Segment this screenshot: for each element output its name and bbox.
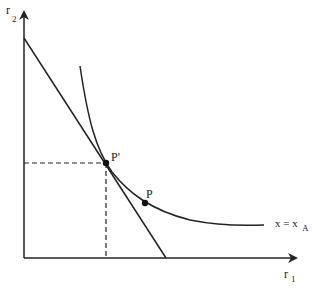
y-axis-label: r bbox=[6, 3, 10, 17]
curve-label: x = x bbox=[275, 217, 298, 229]
label-p: P bbox=[146, 187, 153, 201]
curve-label-subscript: A bbox=[302, 223, 309, 233]
diagram: P' P r 2 r 1 x = x A bbox=[0, 0, 312, 290]
point-p-prime bbox=[103, 160, 109, 166]
isocost-line bbox=[24, 38, 166, 258]
y-axis-subscript: 2 bbox=[12, 14, 17, 24]
isoquant-curve bbox=[80, 66, 264, 225]
x-axis-subscript: 1 bbox=[291, 274, 296, 284]
label-p-prime: P' bbox=[111, 150, 120, 164]
x-axis-label: r bbox=[284, 267, 288, 281]
